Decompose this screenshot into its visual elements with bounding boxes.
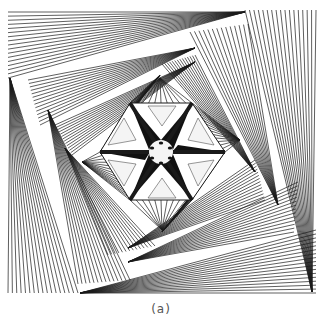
figure-caption: (a) bbox=[0, 302, 322, 316]
string-art-figure bbox=[0, 0, 322, 300]
